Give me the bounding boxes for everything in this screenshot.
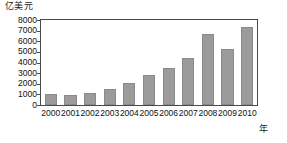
y-axis-tick: 4000 [18, 58, 40, 68]
x-axis-tick-label: 2005 [139, 108, 159, 118]
bar-2002 [84, 93, 96, 105]
bar-chart: 亿美元 010002000300040005000600070008000 20… [0, 0, 287, 143]
y-axis: 010002000300040005000600070008000 [0, 0, 40, 143]
bar-slot [64, 20, 76, 105]
x-axis-tick-label: 2002 [80, 108, 100, 118]
x-axis-unit-label: 年 [259, 124, 268, 134]
x-axis-tick-label: 2004 [120, 108, 140, 118]
bar-slot [104, 20, 116, 105]
y-axis-tick: 0 [32, 100, 40, 110]
bar-2003 [104, 89, 116, 105]
x-axis-tick-label: 2001 [61, 108, 81, 118]
y-axis-tick: 6000 [18, 36, 40, 46]
y-axis-tick: 8000 [18, 15, 40, 25]
bar-slot [182, 20, 194, 105]
x-axis-tick-label: 2006 [159, 108, 179, 118]
y-axis-tick: 2000 [18, 79, 40, 89]
bar-2001 [64, 95, 76, 105]
bars-group [41, 20, 257, 105]
x-axis-tick-label: 2007 [178, 108, 198, 118]
x-axis-tick-label: 2010 [237, 108, 257, 118]
y-axis-tick: 1000 [18, 89, 40, 99]
bar-slot [241, 20, 253, 105]
bar-slot [163, 20, 175, 105]
bar-slot [84, 20, 96, 105]
bar-2009 [221, 49, 233, 105]
x-axis-tick-label: 2000 [41, 108, 61, 118]
y-axis-tick: 3000 [18, 68, 40, 78]
bar-2006 [163, 68, 175, 105]
x-axis-tick-label: 2008 [198, 108, 218, 118]
x-axis: 2000200120022003200420052006200720082009… [41, 108, 257, 122]
bar-slot [202, 20, 214, 105]
bar-slot [221, 20, 233, 105]
bar-2004 [123, 83, 135, 105]
bar-slot [143, 20, 155, 105]
y-axis-tick: 5000 [18, 47, 40, 57]
x-axis-tick-label: 2009 [218, 108, 238, 118]
bar-2008 [202, 34, 214, 105]
bar-2010 [241, 27, 253, 105]
bar-2005 [143, 75, 155, 105]
bar-slot [123, 20, 135, 105]
bar-2007 [182, 58, 194, 105]
x-axis-tick-label: 2003 [100, 108, 120, 118]
y-axis-tick: 7000 [18, 26, 40, 36]
bar-2000 [45, 94, 57, 105]
bar-slot [45, 20, 57, 105]
